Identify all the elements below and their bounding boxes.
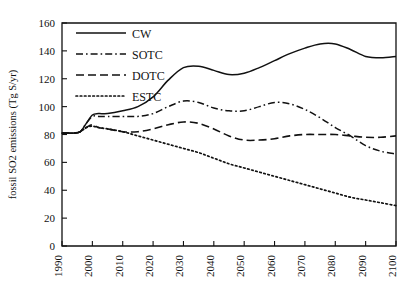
x-tick-label: 2070: [295, 255, 307, 278]
series-line-cw: [62, 43, 396, 133]
y-tick-label: 40: [44, 184, 56, 196]
x-tick-label: 2010: [113, 255, 125, 278]
y-tick-label: 100: [39, 101, 56, 113]
plot-frame: [62, 23, 396, 246]
x-tick-label: 1990: [52, 255, 64, 278]
x-tick-label: 2000: [82, 255, 94, 278]
y-tick-label: 80: [44, 129, 56, 141]
x-tick-label: 2090: [356, 255, 368, 278]
so2-emissions-line-chart: fossil SO2 emissions (Tg S/yr) 020406080…: [0, 0, 418, 299]
x-tick-label: 2050: [234, 255, 246, 278]
x-tick-label: 2040: [204, 255, 216, 278]
x-tick-label: 2030: [173, 255, 185, 278]
y-tick-label: 140: [39, 45, 56, 57]
y-tick-label: 160: [39, 17, 56, 29]
y-axis-title: fossil SO2 emissions (Tg S/yr): [7, 69, 19, 199]
y-tick-label: 120: [39, 73, 56, 85]
x-tick-label: 2020: [143, 255, 155, 278]
x-tick-label: 2100: [386, 255, 398, 278]
series-lines: [62, 43, 396, 205]
chart-legend: CWSOTCDOTCESTC: [76, 27, 165, 104]
x-tick-label: 2060: [265, 255, 277, 278]
y-axis-title-label: fossil SO2 emissions (Tg S/yr): [7, 69, 19, 199]
legend-label-dotc: DOTC: [132, 69, 165, 83]
legend-label-sotc: SOTC: [132, 48, 163, 62]
series-line-estc: [62, 126, 396, 205]
series-line-dotc: [62, 122, 396, 141]
y-tick-label: 20: [44, 212, 56, 224]
x-tick-label: 2080: [325, 255, 337, 278]
legend-label-estc: ESTC: [132, 90, 161, 104]
chart-container: fossil SO2 emissions (Tg S/yr) 020406080…: [0, 0, 418, 299]
y-axis-ticks: 020406080100120140160: [39, 17, 68, 252]
y-tick-label: 60: [44, 156, 56, 168]
axis-frame: [62, 23, 396, 246]
series-line-sotc: [62, 101, 396, 154]
legend-label-cw: CW: [132, 27, 152, 41]
y-tick-label: 0: [50, 240, 56, 252]
